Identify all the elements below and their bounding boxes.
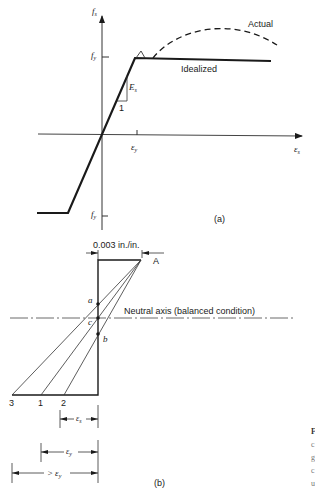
caption-line: u (311, 477, 315, 488)
neutral-axis-label: Neutral axis (balanced condition) (124, 306, 255, 316)
point-c (96, 316, 100, 320)
reinforcement-stress-strain-figure: fs εs fy fy εy Es 1 Actual Idealized (a)… (0, 0, 315, 488)
point-a-label: a (88, 295, 93, 305)
actual-label: Actual (248, 19, 273, 29)
strain-distribution-diagram: 0.003 in./in. Neutral axis (balanced con… (9, 240, 296, 488)
point-a (96, 302, 100, 306)
fy-top-label: fy (91, 50, 97, 61)
x-axis (38, 134, 302, 136)
ey-label: εy (131, 142, 138, 153)
dim-ey-label: εy (66, 447, 72, 457)
point-b-label: b (103, 334, 108, 344)
point-c-label: c (88, 317, 92, 327)
yield-point-marker (136, 51, 145, 58)
point-A-label: A (153, 256, 159, 266)
panel-a-label: (a) (214, 214, 225, 224)
fy-bottom-label: fy (91, 209, 97, 220)
caption-line: F (311, 425, 315, 438)
caption-line: g (311, 451, 315, 464)
strain-label: 0.003 in./in. (93, 240, 140, 250)
slope-run-label: 1 (119, 103, 124, 113)
caption-fragment: F c g c u (311, 425, 315, 488)
strain-line-1 (41, 260, 141, 395)
y-axis-label: fs (92, 6, 98, 17)
bottom-label-2: 2 (61, 398, 66, 408)
actual-curve (153, 29, 277, 58)
caption-line: c (311, 438, 315, 451)
dim-es-label: εs (76, 414, 82, 424)
bottom-label-3: 3 (9, 398, 14, 408)
bottom-label-1: 1 (38, 398, 43, 408)
dim-gt-ey-label: >εy (47, 468, 62, 479)
point-b (96, 332, 100, 336)
stress-strain-plot: fs εs fy fy εy Es 1 Actual Idealized (a) (37, 6, 302, 230)
strain-line-2 (64, 260, 141, 395)
panel-b-label: (b) (154, 478, 165, 488)
idealized-label: Idealized (181, 64, 217, 74)
x-axis-label: εs (294, 144, 301, 155)
caption-line: c (311, 464, 315, 477)
strain-line-3 (12, 260, 141, 395)
modulus-label: Es (128, 82, 138, 93)
